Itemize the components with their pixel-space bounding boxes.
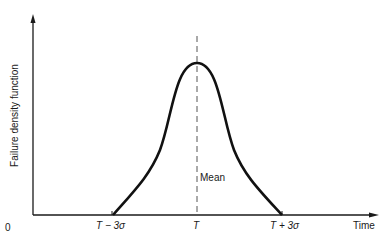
y-axis-label: Failure density function [9, 52, 20, 180]
x-axis-arrow-icon [369, 213, 379, 218]
x-axis-label: Time [353, 220, 375, 231]
mean-label: Mean [200, 172, 225, 183]
origin-label: 0 [5, 222, 11, 233]
tick-label-mid: T [193, 220, 199, 231]
tick-label-right: T + 3σ [270, 220, 299, 231]
y-axis-arrow-icon [31, 14, 36, 23]
tick-label-left: T − 3σ [96, 220, 125, 231]
plot-area [0, 0, 389, 241]
failure-density-diagram: Failure density function 0 T − 3σ T T + … [0, 0, 389, 241]
